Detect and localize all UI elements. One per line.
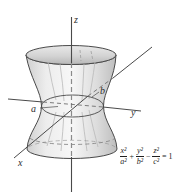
equation-term-y: y² b² [136, 146, 144, 166]
equation-denominator: a² [120, 157, 128, 167]
semiaxis-label-a: a [31, 103, 36, 114]
equation-rhs: = 1 [162, 152, 173, 161]
equation-numerator: y² [136, 146, 144, 157]
x-axis-label: x [18, 157, 22, 168]
equation-term-z: z² c² [152, 146, 160, 166]
equation-denominator: b² [136, 157, 144, 167]
z-axis-label: z [74, 14, 78, 25]
equation-plus-sign: + [129, 152, 134, 161]
y-axis-label: y [131, 107, 135, 118]
equation-numerator: z² [152, 146, 160, 157]
equation-term-x: x² a² [120, 146, 128, 166]
semiaxis-label-b: b [100, 85, 105, 96]
equation-numerator: x² [120, 146, 128, 157]
equation-denominator: c² [152, 157, 160, 167]
surface-equation: x² a² + y² b² − z² c² = 1 [103, 146, 189, 166]
hyperboloid-figure: z y x a b x² a² + y² b² − z² c² = 1 [0, 0, 190, 196]
hyperboloid-diagram-svg [0, 0, 190, 196]
equation-minus-sign: − [146, 152, 151, 161]
